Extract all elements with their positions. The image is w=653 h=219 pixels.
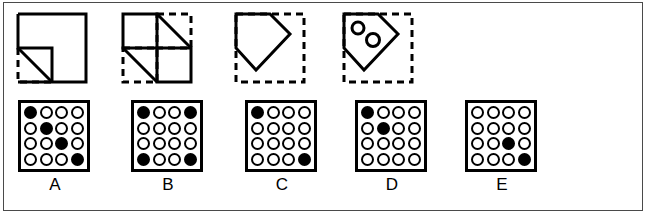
dot-cell [407,121,423,137]
empty-dot-icon [267,122,280,135]
dot-cell [54,121,70,137]
dot-cell [501,105,517,121]
option-d[interactable]: D [347,100,437,200]
empty-dot-icon [408,106,421,119]
filled-dot-icon [40,122,53,135]
option-label-a: A [10,174,100,196]
dot-cell [23,136,39,152]
dot-cell [167,136,183,152]
empty-dot-icon [282,137,295,150]
dot-grid-e[interactable] [465,100,537,172]
dot-cell [54,136,70,152]
dot-grid-b[interactable] [131,100,203,172]
dot-cell [501,121,517,137]
dot-grid-a[interactable] [18,100,90,172]
dot-cell [23,121,39,137]
empty-dot-icon [471,137,484,150]
dot-cell [23,152,39,168]
dot-cell [501,136,517,152]
dot-cell [376,105,392,121]
empty-dot-icon [361,153,374,166]
dot-cell [391,105,407,121]
empty-dot-icon [153,137,166,150]
empty-dot-icon [137,122,150,135]
empty-dot-icon [392,137,405,150]
empty-dot-icon [392,122,405,135]
empty-dot-icon [518,122,531,135]
pentagon-in-dashed-square-icon [228,8,320,94]
dot-cell [136,152,152,168]
dot-cell [39,121,55,137]
empty-dot-icon [377,106,390,119]
dot-cell [39,152,55,168]
dot-cell [376,152,392,168]
filled-dot-icon [71,153,84,166]
dot-cell [54,152,70,168]
empty-dot-icon [377,153,390,166]
figure-square-with-cut-corner [10,8,102,94]
filled-dot-icon [361,106,374,119]
empty-dot-icon [392,106,405,119]
option-a[interactable]: A [10,100,100,200]
dot-cell [501,152,517,168]
empty-dot-icon [471,122,484,135]
filled-dot-icon [251,106,264,119]
option-label-c: C [237,174,327,196]
empty-dot-icon [518,106,531,119]
empty-dot-icon [153,122,166,135]
empty-dot-icon [502,106,515,119]
dot-cell [167,152,183,168]
option-label-d: D [347,174,437,196]
dot-cell [517,152,533,168]
empty-dot-icon [502,122,515,135]
puzzle-page: A B C D E [0,0,653,219]
figure-pentagon-in-dashed-square [228,8,320,94]
dot-cell [297,121,313,137]
empty-dot-icon [24,137,37,150]
dot-cell [517,136,533,152]
dot-grid-d[interactable] [355,100,427,172]
options-row: A B C D E [10,100,570,200]
empty-dot-icon [487,153,500,166]
dot-cell [470,105,486,121]
dot-cell [39,136,55,152]
filled-dot-icon [55,137,68,150]
empty-dot-icon [267,153,280,166]
empty-dot-icon [251,153,264,166]
square-with-cut-corner-icon [10,8,102,94]
option-c[interactable]: C [237,100,327,200]
dot-cell [281,105,297,121]
option-b[interactable]: B [123,100,213,200]
dot-cell [70,136,86,152]
empty-dot-icon [282,153,295,166]
dot-cell [486,152,502,168]
option-e[interactable]: E [457,100,547,200]
dot-cell [297,105,313,121]
empty-dot-icon [40,137,53,150]
filled-dot-icon [137,153,150,166]
dot-grid-c[interactable] [245,100,317,172]
empty-dot-icon [502,153,515,166]
empty-dot-icon [487,137,500,150]
empty-dot-icon [24,153,37,166]
empty-dot-icon [392,153,405,166]
filled-dot-icon [518,153,531,166]
empty-dot-icon [40,153,53,166]
dot-cell [152,105,168,121]
dot-cell [250,121,266,137]
dot-cell [407,105,423,121]
empty-dot-icon [55,153,68,166]
empty-dot-icon [168,137,181,150]
empty-dot-icon [298,137,311,150]
empty-dot-icon [168,122,181,135]
figure-quadrant-square-with-diagonals [115,8,207,94]
empty-dot-icon [487,122,500,135]
dot-cell [183,136,199,152]
empty-dot-icon [55,106,68,119]
empty-dot-icon [71,122,84,135]
dot-cell [391,136,407,152]
dot-cell [70,105,86,121]
empty-dot-icon [267,137,280,150]
dot-cell [167,105,183,121]
empty-dot-icon [168,153,181,166]
